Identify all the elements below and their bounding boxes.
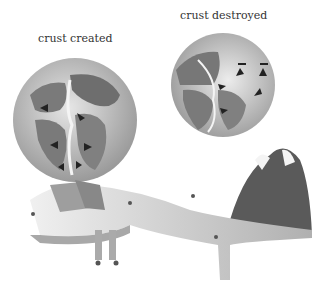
crust-created-label: crust created bbox=[38, 32, 113, 45]
crust-destroyed-label: crust destroyed bbox=[180, 9, 267, 22]
globe-crust-destroyed bbox=[168, 30, 278, 140]
plate-cross-section bbox=[0, 130, 324, 301]
